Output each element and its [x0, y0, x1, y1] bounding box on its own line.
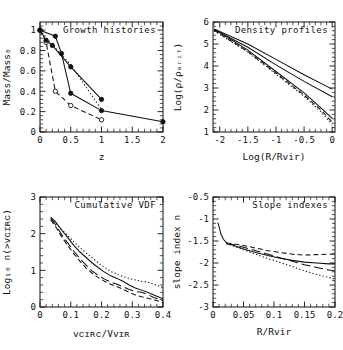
data-point-marker — [53, 34, 57, 38]
panel-title: Slope indexes — [252, 200, 328, 210]
y-axis-label: Log(ρ/ρₑᵣᵢₜ) — [172, 43, 183, 112]
y-tick-label: 4 — [204, 61, 209, 71]
y-axis-label: Log₁₀ n(>vᴄɪʀᴄ) — [1, 209, 12, 295]
x-tick-label: 0.2 — [327, 310, 343, 320]
density-profiles-plot: -2-1.5-1-0.50123456Density profilesLog(R… — [171, 0, 343, 175]
x-tick-label: 0 — [37, 135, 42, 145]
x-tick-label: -1.5 — [237, 135, 259, 145]
x-tick-label: 0.3 — [124, 310, 140, 320]
y-tick-label: 0.4 — [20, 87, 36, 97]
x-tick-label: 0 — [37, 310, 42, 320]
y-axis-label: Mass/Mass₀ — [1, 48, 12, 105]
x-tick-label: 0.15 — [294, 310, 316, 320]
panel-title: Density profiles — [235, 25, 328, 35]
x-tick-label: 0.5 — [63, 135, 79, 145]
series-line — [51, 220, 163, 303]
y-tick-label: 1 — [31, 25, 36, 35]
x-tick-label: -0.5 — [293, 135, 315, 145]
panel-growth-histories: 00.511.5200.20.40.60.81Growth historiesz… — [0, 0, 172, 175]
x-tick-label: 0 — [210, 310, 215, 320]
series-line — [214, 29, 332, 89]
y-tick-label: 6 — [204, 17, 209, 27]
y-tick-label: 3 — [31, 192, 36, 202]
panel-title: Cumulative VDF — [75, 200, 156, 210]
y-axis-label: slope index n — [171, 215, 182, 289]
x-axis-label: R/Rvir — [257, 326, 292, 337]
data-point-marker — [69, 103, 73, 107]
x-tick-label: -2 — [214, 135, 225, 145]
y-tick-label: 0.2 — [20, 107, 36, 117]
y-tick-label: 0.8 — [20, 46, 36, 56]
x-tick-label: 0 — [329, 135, 334, 145]
y-tick-label: -0.5 — [187, 192, 209, 202]
x-tick-label: 1.5 — [124, 135, 140, 145]
data-point-marker — [69, 91, 73, 95]
y-tick-label: 2 — [31, 229, 36, 239]
y-tick-label: 0.6 — [20, 66, 36, 76]
x-axis-label: Log(R/Rvir) — [243, 151, 306, 162]
y-tick-label: -2.5 — [187, 280, 209, 290]
series-line — [226, 244, 335, 271]
panel-cumulative-vdf: 00.10.20.30.40123Cumulative VDFvᴄɪʀᴄ/Vᴠɪ… — [0, 175, 172, 350]
x-tick-label: 0.2 — [93, 310, 109, 320]
x-axis-label: vᴄɪʀᴄ/Vᴠɪʀ — [73, 328, 130, 339]
data-point-marker — [99, 118, 103, 122]
y-tick-label: 0 — [31, 127, 36, 137]
y-tick-label: 2 — [204, 105, 209, 115]
series-line — [51, 218, 163, 301]
x-tick-label: 1 — [99, 135, 104, 145]
x-tick-label: 0.05 — [233, 310, 255, 320]
y-tick-label: 0 — [31, 302, 36, 312]
series-line — [51, 219, 163, 288]
y-tick-label: -2 — [198, 258, 209, 268]
panel-slope-indexes: 00.050.10.150.2-3-2.5-2-1.5-1-0.5Slope i… — [171, 175, 343, 350]
data-point-marker — [161, 120, 165, 124]
series-line — [214, 31, 332, 125]
y-tick-label: -1 — [198, 214, 209, 224]
data-point-marker — [99, 108, 103, 112]
series-line — [40, 30, 102, 109]
panel-title: Growth histories — [63, 25, 156, 35]
series-line — [218, 223, 335, 264]
cumulative-vdf-plot: 00.10.20.30.40123Cumulative VDFvᴄɪʀᴄ/Vᴠɪ… — [0, 175, 172, 350]
plot-frame — [40, 22, 163, 132]
growth-histories-plot: 00.511.5200.20.40.60.81Growth historiesz… — [0, 0, 172, 175]
series-line — [51, 217, 163, 299]
plot-frame — [40, 197, 163, 307]
data-point-marker — [99, 97, 103, 101]
data-point-marker — [38, 28, 42, 32]
series-line — [214, 30, 332, 122]
y-tick-label: -3 — [198, 302, 209, 312]
x-tick-label: -1 — [271, 135, 282, 145]
x-tick-label: 0.1 — [63, 310, 79, 320]
slope-indexes-plot: 00.050.10.150.2-3-2.5-2-1.5-1-0.5Slope i… — [171, 175, 343, 350]
figure-canvas: 00.511.5200.20.40.60.81Growth historiesz… — [0, 0, 343, 350]
y-tick-label: 1 — [204, 127, 209, 137]
y-tick-label: 3 — [204, 83, 209, 93]
data-point-marker — [53, 89, 57, 93]
y-tick-label: -1.5 — [187, 236, 209, 246]
x-axis-label: z — [99, 151, 105, 162]
x-tick-label: 0.4 — [155, 310, 171, 320]
panel-density-profiles: -2-1.5-1-0.50123456Density profilesLog(R… — [171, 0, 343, 175]
y-tick-label: 1 — [31, 266, 36, 276]
x-tick-label: 2 — [160, 135, 165, 145]
x-tick-label: 0.1 — [266, 310, 282, 320]
y-tick-label: 5 — [204, 39, 209, 49]
